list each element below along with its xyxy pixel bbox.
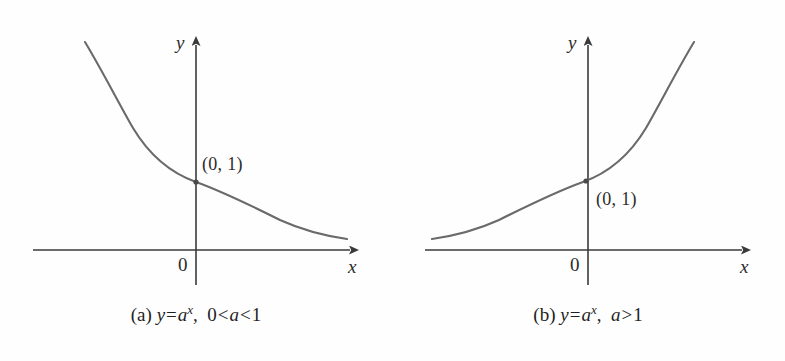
point-label-0-1-a: (0, 1) [202,155,243,173]
x-axis-label-a: x [348,257,356,276]
caption-b-cond-var: a [611,304,621,325]
x-axis-label-b: x [740,257,748,276]
caption-a-cond-op2: < [239,304,252,325]
caption-b: (b) y=ax, a>1 [392,305,784,326]
y-axis-label-b: y [568,33,576,52]
caption-a-cond-left: 0 [207,304,217,325]
plot-a-svg [0,0,392,300]
point-label-0-1-b: (0, 1) [596,190,637,208]
caption-b-tag: (b) [533,304,555,325]
caption-a-tag: (a) [131,304,152,325]
caption-a-cond-right: 1 [252,304,262,325]
y-axis-label-a: y [176,33,184,52]
plot-b-svg [392,0,784,300]
caption-b-equals: = [569,304,582,325]
caption-b-lhs: y [560,304,568,325]
panel-b-increasing-exponential: y x 0 (0, 1) (b) y=ax, a>1 [392,0,784,361]
caption-a-cond-var: a [229,304,239,325]
caption-a-base: a [178,304,188,325]
origin-label-a: 0 [178,255,188,274]
origin-label-b: 0 [570,255,580,274]
caption-a-cond-op1: < [217,304,230,325]
caption-a-equals: = [165,304,178,325]
curve-increasing-exponential [432,42,694,239]
panel-a-decreasing-exponential: y x 0 (0, 1) (a) y=ax, 0<a<1 [0,0,392,361]
point-marker-0-1-a [193,179,198,184]
caption-b-cond-op1: > [620,304,633,325]
curve-decreasing-exponential [85,42,347,239]
caption-b-base: a [581,304,591,325]
point-marker-0-1-b [583,178,588,183]
caption-b-cond-right: 1 [633,304,643,325]
caption-a: (a) y=ax, 0<a<1 [0,305,392,326]
caption-a-lhs: y [157,304,165,325]
exponential-functions-figure: y x 0 (0, 1) (a) y=ax, 0<a<1 [0,0,785,361]
